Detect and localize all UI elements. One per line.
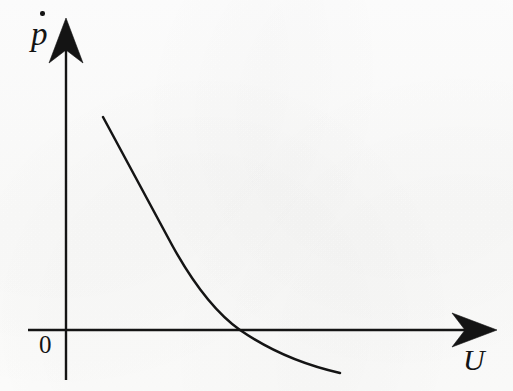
x-axis-label: U xyxy=(463,345,485,375)
y-axis-label: p xyxy=(31,9,48,51)
coordinate-diagram xyxy=(0,0,513,391)
origin-label: 0 xyxy=(39,332,52,357)
p-dot-accent-icon xyxy=(40,11,45,16)
y-axis-label-text: p xyxy=(31,9,48,51)
figure-canvas: p U 0 xyxy=(0,0,513,391)
decay-curve xyxy=(103,117,340,373)
